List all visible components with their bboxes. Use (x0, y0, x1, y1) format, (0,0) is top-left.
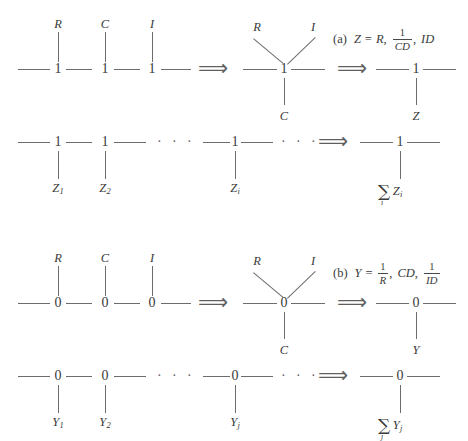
formula-b: (b)Y=1R,CD,1ID (333, 262, 441, 286)
label-a2-z2-sub: 2 (107, 186, 111, 196)
junction-a1-node-1: 1 (52, 62, 64, 76)
junction-a1-node-2: 1 (99, 62, 111, 76)
formula-a-term1: R (376, 32, 384, 46)
bond-a2-seg-3 (203, 142, 230, 143)
implies-arrow-a3: ⟹ (311, 131, 355, 152)
label-a2-z1-base: Z (52, 181, 59, 195)
formula-b-term3-numerator: 1 (424, 262, 440, 273)
bond-a1-merged-diag-r (253, 38, 284, 64)
label-a1-r: R (38, 18, 78, 31)
junction-b2-node-1: 0 (52, 369, 64, 383)
bond-a2-seg-1 (66, 142, 92, 143)
bond-b1-stub-c (105, 266, 106, 296)
bond-b1-stub-r (58, 266, 59, 296)
junction-a1-result: 1 (410, 62, 422, 76)
label-a2-zi: Zi (215, 182, 255, 196)
formula-a-term2-numerator: 1 (393, 28, 412, 39)
label-a1-i: I (132, 18, 172, 31)
label-a1-merged-c: C (264, 110, 304, 123)
bond-b1-right-lead (161, 303, 191, 304)
junction-b1-result: 0 (410, 296, 422, 310)
label-b2-yj: Yj (215, 416, 255, 430)
formula-a: (a)Z=R,1CD,ID (333, 28, 434, 52)
label-b2-sum: ∑jYj (378, 417, 438, 434)
junction-b2-result: 0 (394, 369, 406, 383)
bond-b2-seg-1 (66, 376, 92, 377)
label-b2-y2-base: Y (99, 415, 106, 429)
label-b1-c: C (85, 252, 125, 265)
label-b2-y2: Y2 (85, 416, 125, 430)
sigma-b-index: j (381, 433, 383, 441)
formula-b-comma-2: , (415, 266, 418, 280)
bond-a1-stub-c (105, 32, 106, 62)
label-a2-z1: Z1 (38, 182, 78, 196)
bond-b1-merged-stub-c (284, 312, 285, 339)
label-b2-yj-sub: j (237, 420, 239, 430)
bond-b2-stub-j (235, 385, 236, 413)
junction-b2-node-2: 0 (99, 369, 111, 383)
formula-b-term3-fraction: 1ID (424, 262, 440, 286)
implies-arrow-a1: ⟹ (191, 58, 235, 79)
bond-a2-result-left (360, 142, 393, 143)
bond-b1-result-stub-y (416, 312, 417, 339)
label-b2-y1-base: Y (52, 415, 59, 429)
implies-arrow-b3: ⟹ (311, 365, 355, 386)
formula-b-comma-1: , (389, 266, 392, 280)
bond-a2-left-lead (18, 142, 50, 143)
implies-arrow-a2: ⟹ (330, 58, 374, 79)
junction-a1-merged: 1 (278, 62, 290, 76)
ellipsis-b2-left: · · · (157, 369, 195, 383)
formula-a-lhs: Z (354, 32, 361, 46)
label-b2-sum-term: Yj (393, 418, 403, 432)
bond-b2-result-left (360, 376, 393, 377)
junction-a2-node-i: 1 (229, 135, 241, 149)
junction-b2-node-j: 0 (229, 369, 241, 383)
label-b1-r: R (38, 252, 78, 265)
formula-b-term1-numerator: 1 (378, 262, 389, 273)
junction-a2-node-2: 1 (99, 135, 111, 149)
bond-a2-seg-2 (114, 142, 146, 143)
label-b2-sum-base: Y (393, 418, 400, 432)
bond-b2-seg-4 (241, 376, 273, 377)
label-a2-z2: Z2 (85, 182, 125, 196)
junction-a1-node-3: 1 (146, 62, 158, 76)
junction-b1-merged: 0 (278, 296, 290, 310)
bond-a1-merged-left (243, 69, 277, 70)
sigma-a-glyph: ∑ (378, 181, 390, 201)
bond-b1-seg-2 (114, 303, 140, 304)
bond-a2-result-right (407, 142, 440, 143)
label-b2-sum-sub: j (400, 423, 402, 433)
junction-a2-result: 1 (394, 135, 406, 149)
formula-a-term2-fraction: 1CD (393, 28, 412, 52)
label-a1-merged-i: I (293, 21, 333, 34)
junction-a2-node-1: 1 (52, 135, 64, 149)
label-b1-i: I (132, 252, 172, 265)
bond-a1-merged-right (291, 69, 325, 70)
label-a2-sum: ∑iZi (378, 183, 438, 200)
label-a1-c: C (85, 18, 125, 31)
bond-b2-stub-1 (58, 385, 59, 413)
bond-b1-merged-left (243, 303, 277, 304)
formula-a-tag: (a) (333, 32, 347, 46)
bond-b1-merged-right (291, 303, 325, 304)
junction-b1-node-3: 0 (146, 296, 158, 310)
bond-a2-stub-i (235, 151, 236, 179)
formula-b-term2: CD (397, 266, 414, 280)
label-b2-y1-sub: 1 (60, 420, 64, 430)
bond-b2-left-lead (18, 376, 50, 377)
bond-a1-seg-2 (114, 69, 140, 70)
formula-b-lhs: Y (355, 266, 362, 280)
bond-a2-result-stub (400, 151, 401, 179)
formula-b-tag: (b) (333, 266, 348, 280)
bond-a2-stub-1 (58, 151, 59, 179)
bond-b1-result-right (423, 303, 456, 304)
junction-b1-node-2: 0 (99, 296, 111, 310)
bond-a1-stub-i (152, 32, 153, 62)
label-a1-result-z: Z (396, 110, 436, 123)
formula-b-equals: = (366, 266, 373, 280)
bond-b2-result-stub (400, 385, 401, 413)
formula-a-term3: ID (421, 32, 434, 46)
label-a2-sum-sub: i (400, 189, 402, 199)
label-b2-y1: Y1 (38, 416, 78, 430)
bond-a2-seg-4 (241, 142, 273, 143)
